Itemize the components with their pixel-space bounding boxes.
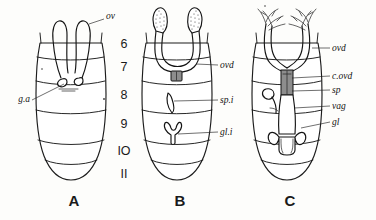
panel-b-abdomen-outline (142, 43, 212, 180)
panel-c-label-ovd: ovd (332, 43, 346, 53)
panel-a-group: ov g.a A (18, 11, 116, 209)
panel-c-label-gl: gl (332, 117, 340, 127)
panel-a-letter: A (69, 192, 80, 209)
panel-c-label-covd: c.ovd (332, 71, 353, 81)
panel-b-letter: B (175, 192, 186, 209)
panel-a-genital-appendage-left (58, 79, 67, 87)
segment-number-9: 9 (121, 117, 128, 131)
diagram-canvas: ov g.a A 6 7 8 9 IO II (0, 0, 376, 220)
panel-c-anterior-tick-left (256, 33, 257, 43)
panel-b-label-spi: sp.i (220, 95, 234, 105)
segment-number-7: 7 (121, 60, 128, 74)
segment-number-8: 8 (121, 88, 128, 102)
panel-c-top-speck (264, 5, 266, 7)
panel-a-abdomen-outline (36, 43, 106, 180)
panel-b-label-ovd: ovd (220, 60, 234, 70)
panel-a-anterior-tick-left (40, 33, 41, 43)
segment-number-6: 6 (121, 37, 128, 51)
panel-c-group: ovd c.ovd sp vag gl C (252, 5, 353, 209)
panel-c-label-sp: sp (332, 85, 341, 95)
panel-a-label-ov: ov (106, 11, 116, 21)
panel-a-lateral-speck-right (103, 98, 105, 100)
segment-number-11: II (121, 167, 128, 181)
panel-c-vagina (279, 95, 296, 134)
figure-plate: ov g.a A 6 7 8 9 IO II (0, 0, 376, 220)
panel-b-ovary-tip-left (153, 8, 167, 33)
panel-b-ovary-tip-right (188, 8, 202, 33)
panel-b-label-gli: gl.i (220, 127, 233, 137)
panel-a-label-ga: g.a (18, 94, 30, 104)
panel-b-anterior-tick-right (207, 33, 208, 43)
segment-number-column: 6 7 8 9 IO II (117, 37, 130, 181)
panel-a-lateral-speck-left (41, 68, 43, 70)
segment-number-10: IO (117, 144, 130, 158)
panel-a-genital-appendage-right (74, 78, 83, 86)
panel-c-label-vag: vag (332, 101, 346, 111)
panel-b-anterior-tick-left (146, 33, 147, 43)
panel-a-anterior-tick-right (101, 33, 102, 43)
panel-c-anterior-tick-right (317, 33, 318, 43)
panel-a-leader-ov (89, 19, 104, 24)
panel-b-group: ovd sp.i gl.i B (142, 8, 234, 209)
panel-c-letter: C (285, 192, 296, 209)
